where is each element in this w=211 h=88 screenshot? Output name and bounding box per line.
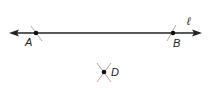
point-a-label: A (24, 36, 32, 48)
geometry-figure: ℓ A B D (0, 0, 211, 88)
point-a (34, 31, 39, 36)
diagram-canvas: ℓ A B D (0, 0, 211, 88)
point-b (171, 31, 176, 36)
line-label: ℓ (186, 15, 191, 27)
point-b-label: B (173, 37, 180, 49)
point-d (102, 70, 107, 75)
point-d-label: D (111, 66, 119, 78)
